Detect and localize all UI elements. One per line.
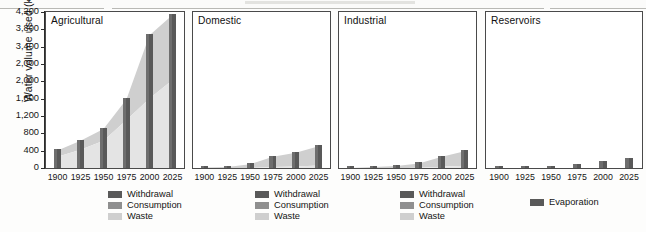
legend-item: Waste xyxy=(255,211,329,221)
bar-industrial-2025 xyxy=(461,150,468,168)
legend-label: Consumption xyxy=(419,200,474,210)
consumption-waste-band xyxy=(46,13,184,169)
legend-swatch-waste xyxy=(400,213,414,220)
bar-highlight xyxy=(123,98,126,168)
bar-domestic-2025 xyxy=(315,145,322,168)
panel-reservoirs: Reservoirs xyxy=(485,11,643,169)
legend-swatch-withdrawal xyxy=(108,191,122,198)
bar-agricultural-2000 xyxy=(146,34,153,168)
panel-industrial: Industrial xyxy=(338,11,477,169)
y-tick-label: 3,400 xyxy=(5,41,39,51)
legend-swatch-waste xyxy=(108,213,122,220)
legend-label: Waste xyxy=(127,211,153,221)
y-tick-label: 1,600 xyxy=(5,93,39,103)
legend-swatch-evaporation xyxy=(530,199,544,206)
legend-swatch-consumption xyxy=(400,202,414,209)
bar-domestic-1925 xyxy=(224,166,231,168)
bar-agricultural-1900 xyxy=(54,149,61,168)
bar-agricultural-2025 xyxy=(169,14,176,168)
bar-domestic-1975 xyxy=(269,156,276,168)
plot-area xyxy=(46,12,184,168)
consumption-waste-band xyxy=(193,13,330,169)
bar-domestic-1950 xyxy=(247,163,254,168)
bar-industrial-1925 xyxy=(370,166,377,168)
legend-item: Waste xyxy=(400,211,474,221)
bar-reservoirs-1950 xyxy=(547,166,555,168)
bar-highlight xyxy=(347,166,350,168)
bar-highlight xyxy=(625,158,629,168)
bar-highlight xyxy=(247,163,250,168)
bar-domestic-2000 xyxy=(292,152,299,168)
legend-swatch-consumption xyxy=(108,202,122,209)
scan-line xyxy=(112,8,544,9)
x-tick-label: 2025 xyxy=(158,172,188,182)
bar-highlight xyxy=(201,166,204,168)
legend-swatch-withdrawal xyxy=(255,191,269,198)
bar-highlight xyxy=(438,156,441,168)
bar-industrial-1900 xyxy=(347,166,354,168)
bar-highlight xyxy=(224,166,227,168)
bar-highlight xyxy=(315,145,318,168)
y-tick-label: 2,000 xyxy=(5,58,39,68)
bar-highlight xyxy=(521,166,525,168)
legend-label: Consumption xyxy=(127,200,182,210)
bar-highlight xyxy=(146,34,149,168)
legend-swatch-withdrawal xyxy=(400,191,414,198)
bar-industrial-1975 xyxy=(415,162,422,168)
figure-root: Water volume used (km³) 4,2003,8003,4002… xyxy=(0,0,646,232)
bar-reservoirs-1975 xyxy=(573,164,581,168)
bar-agricultural-1925 xyxy=(77,140,84,168)
bar-highlight xyxy=(169,14,172,168)
bar-domestic-1900 xyxy=(201,166,208,168)
bar-highlight xyxy=(54,149,57,168)
legend-label: Withdrawal xyxy=(127,189,173,199)
scan-artifact-strip xyxy=(0,0,646,9)
bar-highlight xyxy=(269,156,272,168)
legend-item: Consumption xyxy=(400,200,474,210)
bar-reservoirs-2000 xyxy=(599,161,607,168)
legend-item: Consumption xyxy=(108,200,182,210)
x-tick-label: 2025 xyxy=(450,172,480,182)
bar-industrial-1950 xyxy=(393,165,400,168)
bar-reservoirs-1925 xyxy=(521,166,529,168)
panel-agricultural: Agricultural xyxy=(45,11,185,169)
bar-agricultural-1950 xyxy=(100,128,107,168)
legend-industrial: WithdrawalConsumptionWaste xyxy=(400,189,474,222)
legend-label: Withdrawal xyxy=(419,189,465,199)
plot-area xyxy=(193,12,330,168)
legend-reservoirs: Evaporation xyxy=(530,197,599,208)
legend-label: Consumption xyxy=(274,200,329,210)
x-tick-label: 2025 xyxy=(304,172,334,182)
bar-highlight xyxy=(547,166,551,168)
panel-domestic: Domestic xyxy=(192,11,331,169)
bar-reservoirs-1900 xyxy=(495,166,503,168)
bar-highlight xyxy=(370,166,373,168)
legend-label: Evaporation xyxy=(549,197,599,207)
bar-highlight xyxy=(77,140,80,168)
legend-item: Withdrawal xyxy=(400,189,474,199)
plot-area xyxy=(486,12,642,168)
legend-swatch-consumption xyxy=(255,202,269,209)
legend-item: Evaporation xyxy=(530,197,599,207)
bar-highlight xyxy=(495,166,499,168)
bar-highlight xyxy=(573,164,577,168)
legend-domestic: WithdrawalConsumptionWaste xyxy=(255,189,329,222)
legend-label: Waste xyxy=(274,211,300,221)
bar-highlight xyxy=(100,128,103,168)
bar-highlight xyxy=(292,152,295,168)
y-tick-label: 0 xyxy=(5,162,39,172)
bar-highlight xyxy=(393,165,396,168)
consumption-waste-band xyxy=(339,13,476,169)
legend-label: Waste xyxy=(419,211,445,221)
y-tick-label: 2,000 xyxy=(5,75,39,85)
scan-smudge xyxy=(245,1,415,4)
bar-highlight xyxy=(415,162,418,168)
y-tick-label: 400 xyxy=(5,145,39,155)
bar-reservoirs-2025 xyxy=(625,158,633,168)
scan-line xyxy=(550,8,646,9)
y-tick-label: 800 xyxy=(5,127,39,137)
legend-item: Waste xyxy=(108,211,182,221)
y-tick-label: 1,200 xyxy=(5,110,39,120)
bar-highlight xyxy=(599,161,603,168)
legend-agricultural: WithdrawalConsumptionWaste xyxy=(108,189,182,222)
